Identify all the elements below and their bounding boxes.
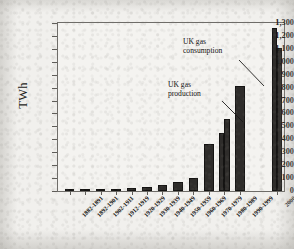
annotation-uk-gas-production: UK gas production <box>168 80 201 98</box>
bar <box>189 178 199 191</box>
y-axis-tick-label: 500 <box>250 122 294 130</box>
y-axis-tick-label: 800 <box>250 84 294 92</box>
y-axis-tick-label: 1,000 <box>250 58 294 66</box>
y-axis-tick-label: 1,300 <box>250 19 294 27</box>
x-axis-tick-mark <box>193 191 194 195</box>
y-axis-tick-mark <box>52 49 57 50</box>
x-axis-tick-mark <box>178 191 179 195</box>
bar-group <box>155 23 170 191</box>
annotation-consumption-line2: consumption <box>183 46 222 55</box>
x-axis-tick-mark <box>132 191 133 195</box>
y-axis-tick-mark <box>52 165 57 166</box>
bar-group <box>77 23 92 191</box>
annotation-production-line2: production <box>168 89 201 98</box>
y-axis-tick-label: 700 <box>250 97 294 105</box>
bar-group <box>62 23 77 191</box>
x-axis-tick-mark <box>85 191 86 195</box>
bar <box>235 86 245 191</box>
y-axis-tick-label: 600 <box>250 109 294 117</box>
y-axis-tick-label: 1,100 <box>250 45 294 53</box>
y-axis-tick-mark <box>52 101 57 102</box>
x-axis-tick-label: 2000 <box>284 195 294 208</box>
x-axis-tick-mark <box>209 191 210 195</box>
y-axis-tick-mark <box>52 62 57 63</box>
y-axis-tick-label: 200 <box>250 161 294 169</box>
bar-group <box>93 23 108 191</box>
x-axis-tick-mark <box>162 191 163 195</box>
y-axis-tick-mark <box>52 191 57 192</box>
bar-group <box>232 23 247 191</box>
y-axis-tick-mark <box>52 113 57 114</box>
bar <box>204 144 214 191</box>
y-axis-tick-label: 1,200 <box>250 32 294 40</box>
y-axis-tick-mark <box>52 88 57 89</box>
y-axis-title: TWh <box>16 56 31 136</box>
annotation-consumption-line1: UK gas <box>183 37 222 46</box>
chart-figure: TWh 01002003004005006007008009001,0001,1… <box>0 0 294 249</box>
y-axis-tick-mark <box>52 178 57 179</box>
y-axis-tick-label: 300 <box>250 148 294 156</box>
bar <box>224 119 229 191</box>
annotation-production-line1: UK gas <box>168 80 201 89</box>
y-axis-tick-label: 0 <box>250 187 294 195</box>
bar-group <box>124 23 139 191</box>
x-axis-tick-mark <box>224 191 225 195</box>
annotation-uk-gas-consumption: UK gas consumption <box>183 37 222 55</box>
bar-group <box>139 23 154 191</box>
y-axis-tick-mark <box>52 36 57 37</box>
x-axis-tick-mark <box>116 191 117 195</box>
x-axis-tick-mark <box>147 191 148 195</box>
x-axis-tick-mark <box>101 191 102 195</box>
y-axis-tick-mark <box>52 152 57 153</box>
y-axis-tick-mark <box>52 126 57 127</box>
y-axis-tick-mark <box>52 75 57 76</box>
y-axis-tick-mark <box>52 23 57 24</box>
y-axis-tick-label: 100 <box>250 174 294 182</box>
y-axis-tick-label: 900 <box>250 71 294 79</box>
bar <box>173 182 183 191</box>
bar-group <box>108 23 123 191</box>
y-axis-tick-label: 400 <box>250 135 294 143</box>
x-axis-tick-mark <box>240 191 241 195</box>
y-axis-tick-mark <box>52 139 57 140</box>
x-axis-tick-mark <box>70 191 71 195</box>
